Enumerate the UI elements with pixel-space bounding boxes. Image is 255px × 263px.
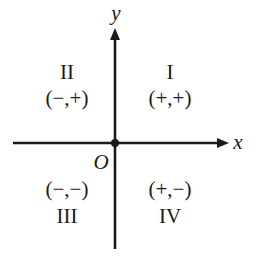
origin-point [111, 139, 119, 147]
quadrant-III-signs: (−,−) [46, 179, 89, 200]
y-axis-label: y [111, 3, 120, 24]
quadrant-II-numeral: II [60, 62, 74, 83]
quadrant-IV-signs: (+,−) [149, 179, 192, 200]
quadrant-II-signs: (−,+) [46, 88, 89, 109]
x-axis-arrowhead-icon [217, 138, 229, 148]
y-axis-arrowhead-icon [110, 28, 120, 40]
coordinate-plane [0, 0, 255, 263]
quadrant-I-signs: (+,+) [149, 88, 192, 109]
quadrant-III-numeral: III [57, 206, 78, 227]
quadrant-IV-numeral: IV [159, 206, 181, 227]
x-axis-label: x [233, 132, 242, 153]
quadrant-I-numeral: I [167, 62, 174, 83]
origin-label: O [93, 152, 108, 173]
